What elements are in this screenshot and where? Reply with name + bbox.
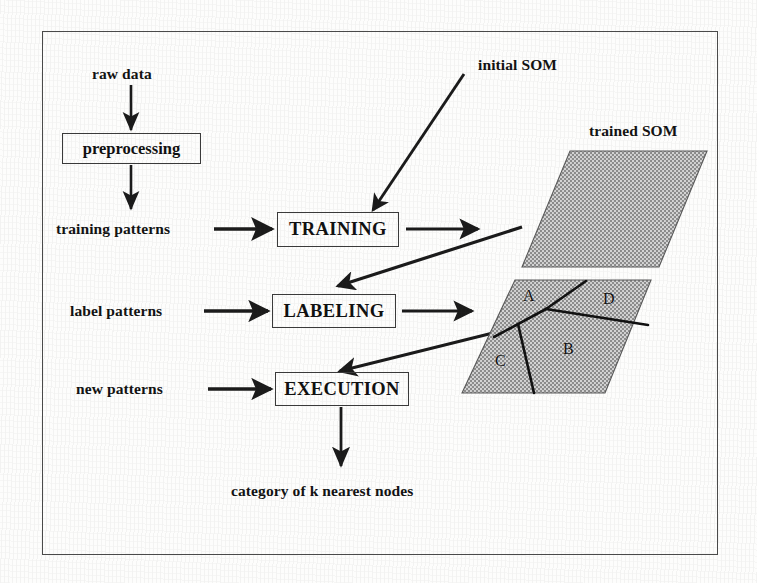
label-trained-som: trained SOM: [589, 123, 678, 139]
som-region-d: D: [603, 290, 615, 308]
som-region-b: B: [563, 340, 574, 358]
label-training-patterns: training patterns: [56, 221, 170, 237]
box-preprocessing-label: preprocessing: [83, 139, 180, 159]
box-execution-label: EXECUTION: [284, 379, 400, 400]
label-initial-som: initial SOM: [478, 57, 557, 73]
labeled-som-sheet: [462, 280, 651, 393]
label-raw-data: raw data: [92, 66, 152, 82]
arrow-initial-som-to-training: [373, 74, 464, 210]
label-label-patterns: label patterns: [70, 303, 162, 319]
box-labeling-label: LABELING: [284, 301, 385, 322]
box-training[interactable]: TRAINING: [277, 212, 399, 247]
trained-som-sheet: [522, 151, 707, 267]
box-training-label: TRAINING: [289, 219, 387, 240]
label-result: category of k nearest nodes: [231, 483, 413, 499]
label-new-patterns: new patterns: [76, 381, 163, 397]
som-region-a: A: [523, 287, 535, 305]
box-execution[interactable]: EXECUTION: [275, 372, 409, 406]
figure-page: raw data training patterns label pattern…: [0, 0, 757, 583]
box-preprocessing[interactable]: preprocessing: [62, 133, 201, 164]
som-region-c: C: [495, 352, 506, 370]
box-labeling[interactable]: LABELING: [272, 294, 396, 328]
